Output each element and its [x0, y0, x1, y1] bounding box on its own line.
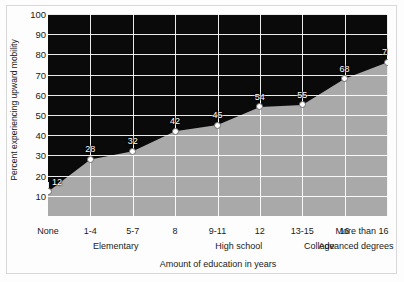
vertical-gridline	[302, 14, 303, 216]
chart-figure: 102030405060708090100 Percent experienci…	[0, 0, 404, 282]
vertical-gridline	[175, 14, 176, 216]
data-point-label: 76	[382, 47, 388, 57]
data-point-marker	[172, 128, 179, 135]
vertical-gridline	[133, 14, 134, 216]
vertical-gridline	[345, 14, 346, 216]
vertical-gridline	[387, 14, 388, 216]
data-point-label: 32	[128, 136, 138, 146]
x-axis-group-label: High school	[215, 241, 262, 251]
x-axis-tick-label: 1-4	[84, 226, 97, 236]
data-point-label: 68	[340, 64, 350, 74]
x-axis-tick-label: 8	[173, 226, 178, 236]
data-point-label: 54	[255, 92, 265, 102]
y-axis-tick-label: 40	[35, 130, 46, 141]
data-point-marker	[214, 122, 221, 129]
x-axis-title: Amount of education in years	[48, 259, 388, 269]
x-axis-tick-label: None	[37, 226, 59, 236]
data-point-label: 45	[212, 110, 222, 120]
data-point-label: 55	[297, 90, 307, 100]
y-axis-tick-label: 70	[35, 69, 46, 80]
data-point-marker	[384, 59, 389, 66]
y-axis-tick-label: 20	[35, 170, 46, 181]
plot-area: 122832424554556876	[48, 14, 388, 216]
y-axis-tick-label: 50	[35, 110, 46, 121]
y-axis-tick-label: 30	[35, 150, 46, 161]
data-point-label: 28	[85, 144, 95, 154]
x-axis-tick-label: 5-7	[126, 226, 139, 236]
y-axis-tick-label: 90	[35, 29, 46, 40]
x-axis-tick-label: More than 16	[335, 226, 388, 236]
vertical-gridline	[90, 14, 91, 216]
data-point-label: 12	[52, 177, 62, 187]
x-axis-group-label: Advanced degrees	[318, 241, 393, 251]
data-point-marker	[87, 156, 94, 163]
y-axis-tick-label: 10	[35, 190, 46, 201]
vertical-gridline	[260, 14, 261, 216]
x-axis-tick-label: 12	[255, 226, 265, 236]
x-axis-group-labels: ElementaryHigh schoolCollegeAdvanced deg…	[48, 241, 388, 255]
y-axis-tick-label: 60	[35, 89, 46, 100]
y-axis-title: Percent experiencing upward mobility	[9, 10, 19, 210]
x-axis-tick-label: 9-11	[209, 226, 226, 236]
y-axis-tick-label: 80	[35, 49, 46, 60]
x-axis-tick-label: 13-15	[291, 226, 314, 236]
x-axis-group-label: Elementary	[93, 241, 139, 251]
y-axis-tick-label: 100	[30, 9, 46, 20]
x-axis-tick-labels: None1-45-789-111213-1516More than 16	[48, 226, 388, 239]
data-point-label: 42	[170, 116, 180, 126]
